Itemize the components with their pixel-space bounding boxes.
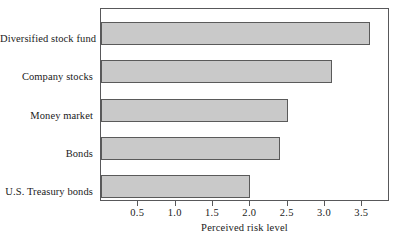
x-axis-tick-label: 2.0 [229,207,269,219]
x-axis-tick-label: 1.5 [192,207,232,219]
bar-money-market [101,99,288,122]
bars-container [101,9,388,200]
x-axis-tick [212,201,213,206]
category-axis-labels: Diversified stock fund Company stocks Mo… [0,8,97,201]
x-axis-tick [361,201,362,206]
bar-us-treasury-bonds [101,175,250,198]
category-label-company-stocks: Company stocks [0,71,93,82]
x-axis-tick-label: 3.5 [341,207,381,219]
category-label-us-treasury-bonds: U.S. Treasury bonds [0,186,93,197]
category-label-money-market: Money market [0,110,93,121]
x-axis-tick [175,201,176,206]
x-axis-tick-label: 0.5 [117,207,157,219]
x-axis-tick-label: 1.0 [155,207,195,219]
bar-diversified-stock-fund [101,22,370,45]
x-axis-tick-label: 3.0 [304,207,344,219]
bar-chart-figure: Diversified stock fund Company stocks Mo… [0,0,402,245]
x-axis-tick-label: 2.5 [267,207,307,219]
bar-company-stocks [101,60,332,83]
bar-bonds [101,137,280,160]
plot-area [100,8,389,201]
x-axis-title: Perceived risk level [100,222,389,234]
x-axis-tick [137,201,138,206]
category-label-diversified-stock-fund: Diversified stock fund [0,33,93,44]
category-label-bonds: Bonds [0,148,93,159]
x-axis-tick [287,201,288,206]
x-axis-tick [249,201,250,206]
x-axis-tick [324,201,325,206]
